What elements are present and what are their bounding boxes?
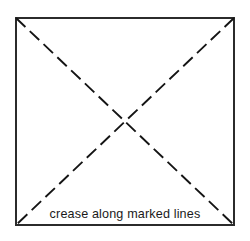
crease-diagram-canvas: crease along marked lines — [0, 0, 250, 241]
crease-diagram-figure: crease along marked lines — [0, 0, 250, 241]
crease-instruction-caption: crease along marked lines — [50, 207, 201, 221]
